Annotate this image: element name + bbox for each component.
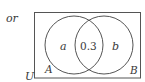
set-a-name: A [44, 63, 53, 75]
universe-label: U [25, 70, 35, 82]
set-b-name: B [129, 64, 138, 76]
intersection-value: 0.3 [80, 40, 97, 52]
prefix-label: or [6, 12, 19, 25]
venn-diagram: or a 0.3 b A B U [0, 0, 145, 82]
region-b-label: b [112, 40, 119, 53]
region-a-label: a [60, 40, 67, 53]
